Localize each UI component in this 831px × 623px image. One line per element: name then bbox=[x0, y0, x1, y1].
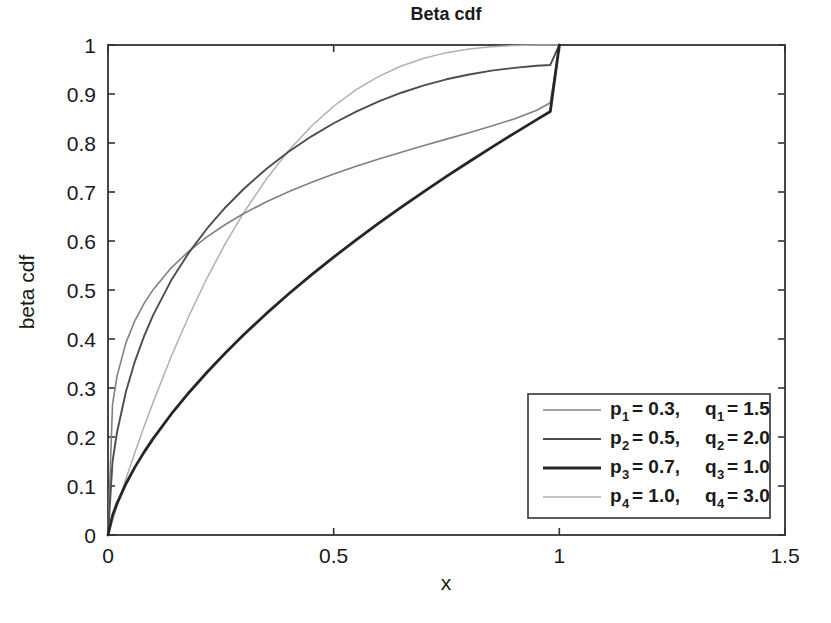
legend-label-q: q bbox=[705, 427, 717, 448]
legend-label: p bbox=[610, 427, 622, 448]
y-tick-label: 0.7 bbox=[67, 181, 96, 204]
y-tick-label: 0.9 bbox=[67, 83, 96, 106]
legend-value-p: = 0.3, bbox=[632, 398, 680, 419]
legend-label: p bbox=[610, 485, 622, 506]
legend[interactable]: p1= 0.3,q1= 1.5p2= 0.5,q2= 2.0p3= 0.7,q3… bbox=[528, 394, 770, 518]
legend-subscript-p: 2 bbox=[622, 438, 629, 453]
legend-subscript-p: 4 bbox=[622, 496, 630, 511]
y-tick-label: 0.3 bbox=[67, 377, 96, 400]
y-axis-label: beta cdf bbox=[15, 254, 38, 329]
legend-value-p: = 0.7, bbox=[632, 456, 680, 477]
legend-subscript-q: 1 bbox=[717, 409, 724, 424]
legend-subscript-q: 4 bbox=[717, 496, 725, 511]
legend-value-q: = 2.0 bbox=[727, 427, 770, 448]
legend-label-q: q bbox=[705, 456, 717, 477]
legend-value-q: = 1.5 bbox=[727, 398, 770, 419]
legend-value-p: = 0.5, bbox=[632, 427, 680, 448]
legend-subscript-q: 3 bbox=[717, 467, 724, 482]
legend-label-q: q bbox=[705, 485, 717, 506]
y-tick-label: 0 bbox=[84, 524, 96, 547]
legend-label: p bbox=[610, 398, 622, 419]
y-tick-label: 0.6 bbox=[67, 230, 96, 253]
chart-background bbox=[0, 0, 831, 623]
legend-value-p: = 1.0, bbox=[632, 485, 680, 506]
legend-subscript-q: 2 bbox=[717, 438, 724, 453]
beta-cdf-chart: Beta cdf 00.511.5 00.10.20.30.40.50.60.7… bbox=[0, 0, 831, 623]
legend-label: p bbox=[610, 456, 622, 477]
x-tick-label: 1.5 bbox=[770, 544, 799, 567]
x-tick-label: 0 bbox=[102, 544, 114, 567]
legend-label-q: q bbox=[705, 398, 717, 419]
y-tick-label: 0.4 bbox=[67, 328, 97, 351]
chart-title: Beta cdf bbox=[410, 4, 482, 24]
y-tick-label: 0.8 bbox=[67, 132, 96, 155]
x-tick-label: 1 bbox=[553, 544, 565, 567]
y-tick-label: 0.1 bbox=[67, 475, 96, 498]
y-tick-label: 0.2 bbox=[67, 426, 96, 449]
x-tick-label: 0.5 bbox=[319, 544, 348, 567]
x-axis-label: x bbox=[441, 571, 452, 594]
legend-subscript-p: 1 bbox=[622, 409, 629, 424]
legend-value-q: = 1.0 bbox=[727, 456, 770, 477]
chart-page: Beta cdf 00.511.5 00.10.20.30.40.50.60.7… bbox=[0, 0, 831, 623]
y-tick-label: 0.5 bbox=[67, 279, 96, 302]
y-tick-label: 1 bbox=[84, 34, 96, 57]
legend-value-q: = 3.0 bbox=[727, 485, 770, 506]
legend-subscript-p: 3 bbox=[622, 467, 629, 482]
